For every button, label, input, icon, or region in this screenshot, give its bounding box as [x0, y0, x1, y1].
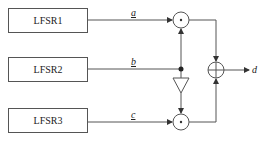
signal-c-label: c	[131, 110, 135, 120]
signal-a-label: a	[131, 8, 136, 18]
signal-b-label: b	[131, 57, 136, 67]
connection-lines	[0, 0, 263, 143]
inverter-icon	[173, 78, 189, 93]
output-d-label: d	[252, 65, 257, 75]
junction-dot	[179, 67, 184, 72]
